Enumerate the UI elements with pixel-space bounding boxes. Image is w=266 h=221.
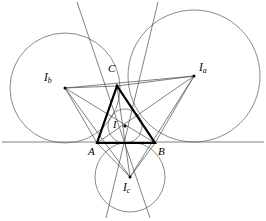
label-Ic: Ic xyxy=(123,182,130,195)
point-I xyxy=(123,124,126,127)
segment-Ib-A xyxy=(65,88,97,143)
circles-group xyxy=(10,10,260,212)
label-Ia-subscript: a xyxy=(203,66,207,75)
segment-Ic-A xyxy=(97,143,130,177)
label-A-text: A xyxy=(88,145,95,157)
label-Ib-subscript: b xyxy=(48,76,52,85)
label-Ic-subscript: c xyxy=(127,186,130,195)
geometry-svg xyxy=(0,0,266,221)
label-C-text: C xyxy=(108,62,115,74)
point-Ib xyxy=(64,87,67,90)
label-Ia: Ia xyxy=(199,62,207,75)
label-B-text: B xyxy=(158,145,165,157)
label-I-text: I xyxy=(113,119,117,130)
label-A: A xyxy=(88,146,95,157)
point-Ic xyxy=(129,176,132,179)
point-Ia xyxy=(193,75,196,78)
segment-Ia-B xyxy=(155,76,194,143)
point-C xyxy=(116,85,119,88)
label-I: I xyxy=(113,120,117,131)
label-Ib: Ib xyxy=(44,72,52,85)
segment-Ic-B xyxy=(130,143,155,177)
figure-canvas: A B C Ia Ib Ic I xyxy=(0,0,266,221)
segment-Ia-C xyxy=(117,76,194,86)
label-C: C xyxy=(108,63,115,74)
label-B: B xyxy=(158,146,165,157)
